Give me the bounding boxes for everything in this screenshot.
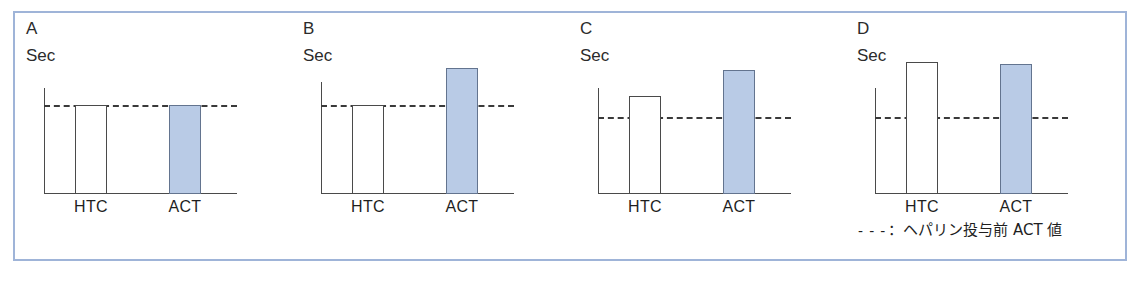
panel-c-label-htc: HTC: [615, 199, 675, 215]
panel-c-reference-line: [598, 117, 791, 119]
panel-a-y-axis: [44, 88, 45, 193]
panel-b-label-htc: HTC: [338, 199, 398, 215]
panel-d-bar-htc: [906, 62, 938, 194]
panel-b-reference-line: [321, 105, 514, 107]
panel-c-x-axis: [598, 193, 791, 194]
panel-b-bar-htc: [352, 105, 384, 194]
panel-c-y-axis: [598, 88, 599, 193]
panel-c-plot: HTC ACT: [567, 11, 847, 261]
panel-a-bar-htc: [75, 105, 107, 194]
panel-a: A Sec HTC ACT: [13, 11, 293, 261]
panel-b-label-act: ACT: [432, 199, 492, 215]
panel-b-y-axis: [321, 82, 322, 193]
panel-d: D Sec HTC ACT - - - ： ヘパリン投与前 ACT 値: [844, 11, 1124, 261]
panel-a-label-act: ACT: [155, 199, 215, 215]
panel-d-reference-line: [875, 117, 1068, 119]
panel-c-bar-act: [723, 70, 755, 194]
legend-dashed-line-icon: - - -: [858, 223, 886, 238]
panel-container: A Sec HTC ACT B Sec HTC: [13, 11, 1127, 261]
panel-d-y-axis: [875, 88, 876, 193]
panel-a-reference-line: [44, 105, 237, 107]
panel-b-plot: HTC ACT: [290, 11, 570, 261]
panel-d-label-htc: HTC: [892, 199, 952, 215]
panel-a-label-htc: HTC: [61, 199, 121, 215]
panel-b-x-axis: [321, 193, 514, 194]
panel-c: C Sec HTC ACT: [567, 11, 847, 261]
panel-a-bar-act: [169, 105, 201, 194]
panel-d-x-axis: [875, 193, 1068, 194]
panel-a-x-axis: [44, 193, 237, 194]
panel-c-bar-htc: [629, 96, 661, 194]
legend: - - - ： ヘパリン投与前 ACT 値: [858, 223, 1063, 238]
legend-separator: ：: [888, 223, 903, 238]
figure-root: A Sec HTC ACT B Sec HTC: [0, 0, 1141, 283]
panel-b: B Sec HTC ACT: [290, 11, 570, 261]
panel-c-label-act: ACT: [709, 199, 769, 215]
legend-label: ヘパリン投与前 ACT 値: [903, 223, 1062, 238]
panel-d-label-act: ACT: [986, 199, 1046, 215]
panel-a-plot: HTC ACT: [13, 11, 293, 261]
panel-d-bar-act: [1000, 64, 1032, 194]
panel-b-bar-act: [446, 68, 478, 194]
